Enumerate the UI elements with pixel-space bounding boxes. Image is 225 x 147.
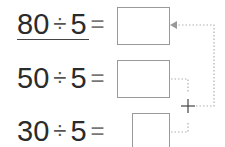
arrow-head-icon bbox=[170, 21, 177, 29]
plus-icon bbox=[181, 99, 195, 113]
connector-lines bbox=[0, 0, 225, 147]
